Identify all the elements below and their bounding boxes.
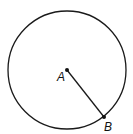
label-b: B <box>104 120 112 134</box>
label-a: A <box>56 70 65 84</box>
point-b <box>102 115 106 119</box>
radius-segment-ab <box>67 70 104 117</box>
circle-diagram: A B <box>0 0 133 134</box>
point-a <box>65 68 69 72</box>
